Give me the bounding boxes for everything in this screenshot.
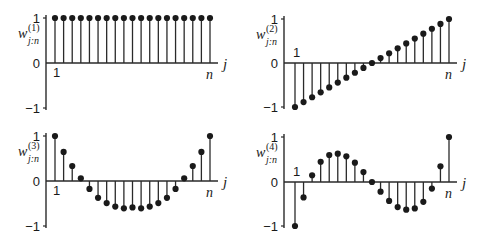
y-axis-label: w [256, 145, 266, 160]
y-tick-label: −1 [25, 101, 40, 116]
stem-marker [121, 205, 127, 211]
y-label-subscript: j:n [26, 153, 39, 164]
stem-marker [420, 31, 426, 37]
stem-marker [138, 15, 144, 21]
stem-panel-2: 10−1w(2)j:n1nj [256, 12, 466, 115]
y-tick-label: 0 [271, 56, 278, 71]
stem-marker [198, 15, 204, 21]
stem-marker [300, 194, 306, 200]
stem-panel-4: 10−1w(4)j:n1nj [256, 130, 466, 234]
y-label-superscript: (4) [266, 141, 278, 153]
stem-marker [318, 159, 324, 165]
y-label-superscript: (1) [28, 22, 40, 34]
stem-marker [69, 163, 75, 169]
stem-marker [352, 160, 358, 166]
stem-marker [104, 200, 110, 206]
y-axis-label: w [18, 26, 28, 41]
stem-marker [292, 104, 298, 110]
stem-marker [309, 172, 315, 178]
stem-marker [318, 89, 324, 95]
stem-marker [369, 60, 375, 66]
y-label-superscript: (2) [266, 23, 278, 35]
y-axis-label: w [256, 27, 266, 42]
stem-marker [360, 169, 366, 175]
x-end-label: n [206, 185, 213, 200]
x-start-label: 1 [53, 65, 60, 80]
y-label-subscript: j:n [26, 35, 39, 46]
stem-marker [181, 15, 187, 21]
stem-marker [412, 35, 418, 41]
stem-marker [155, 15, 161, 21]
stem-marker [326, 152, 332, 158]
stem-marker [395, 45, 401, 51]
x-start-label: 1 [53, 183, 60, 198]
stem-marker [95, 15, 101, 21]
stem-marker [343, 75, 349, 81]
x-end-label: n [206, 67, 213, 82]
x-start-label: 1 [293, 164, 300, 179]
stem-plot-grid: 10−1w(1)j:n1nj10−1w(2)j:n1nj10−1w(3)j:n1… [0, 0, 478, 240]
stem-marker [129, 15, 135, 21]
stem-marker [147, 204, 153, 210]
stem-marker [172, 186, 178, 192]
stem-marker [52, 15, 58, 21]
stem-marker [181, 175, 187, 181]
stem-marker [377, 55, 383, 61]
stem-marker [429, 186, 435, 192]
stem-marker [437, 163, 443, 169]
stem-marker [164, 195, 170, 201]
y-label-superscript: (3) [28, 140, 40, 152]
stem-marker [61, 149, 67, 155]
x-end-label: n [445, 67, 452, 82]
x-axis-label: j [460, 175, 466, 191]
stem-marker [352, 70, 358, 76]
stem-marker [78, 175, 84, 181]
stem-marker [138, 205, 144, 211]
stem-marker [377, 189, 383, 195]
stem-marker [86, 186, 92, 192]
stem-marker [326, 84, 332, 90]
stem-marker [52, 133, 58, 139]
stem-marker [190, 163, 196, 169]
y-tick-label: −1 [263, 219, 278, 234]
stem-marker [207, 133, 213, 139]
stem-marker [386, 50, 392, 56]
x-axis-label: j [221, 174, 227, 190]
y-tick-label: 0 [33, 174, 40, 189]
stem-marker [95, 195, 101, 201]
stem-marker [335, 151, 341, 157]
stem-marker [164, 15, 170, 21]
stem-marker [309, 94, 315, 100]
stem-marker [343, 153, 349, 159]
stem-marker [446, 134, 452, 140]
stem-marker [446, 16, 452, 22]
stem-marker [61, 15, 67, 21]
stem-marker [198, 149, 204, 155]
y-label-subscript: j:n [264, 36, 277, 47]
stem-panel-3: 10−1w(3)j:n1nj [18, 129, 227, 234]
stem-marker [86, 15, 92, 21]
stem-marker [207, 15, 213, 21]
stem-marker [395, 204, 401, 210]
stem-marker [300, 99, 306, 105]
stem-marker [69, 15, 75, 21]
y-tick-label: −1 [25, 219, 40, 234]
x-end-label: n [445, 186, 452, 201]
stem-marker [403, 40, 409, 46]
stem-marker [104, 15, 110, 21]
x-start-label: 1 [293, 45, 300, 60]
stem-marker [335, 79, 341, 85]
stem-marker [386, 198, 392, 204]
x-axis-label: j [460, 56, 466, 72]
stem-marker [429, 26, 435, 32]
y-tick-label: 0 [271, 175, 278, 190]
stem-marker [121, 15, 127, 21]
y-tick-label: −1 [263, 100, 278, 115]
stem-marker [190, 15, 196, 21]
stem-marker [360, 65, 366, 71]
stem-marker [437, 21, 443, 27]
y-axis-label: w [18, 144, 28, 159]
stem-marker [155, 200, 161, 206]
stem-marker [78, 15, 84, 21]
stem-marker [172, 15, 178, 21]
